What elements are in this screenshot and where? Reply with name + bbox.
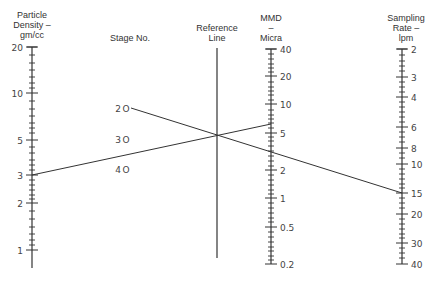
axis-mmd: 4020105210.50.2	[265, 45, 294, 270]
axis-title-line: lpm	[381, 33, 431, 43]
axis-title-line: –	[246, 23, 296, 33]
axis-title-line: Density –	[2, 20, 62, 30]
axis-sampling_rate: 234681015203040	[396, 45, 423, 270]
tick-label: 2	[411, 45, 417, 55]
tick-label: 4	[411, 93, 417, 103]
axis-title-particle-density: Particle Density – gm/cc	[2, 10, 62, 40]
tick-label: 10	[12, 89, 24, 99]
axis-title-line: Reference	[186, 23, 248, 33]
axis-title-line: Line	[186, 33, 248, 43]
tick-label: 2	[280, 166, 286, 176]
tick-label: 20	[280, 72, 292, 82]
tick-label: 2	[17, 199, 23, 209]
tick-label: 15	[411, 189, 422, 199]
tick-label: 20	[411, 210, 423, 220]
tick-label: 1	[280, 194, 286, 204]
tick-label: 1	[17, 246, 23, 256]
axis-title-sampling-rate: Sampling Rate – lpm	[381, 13, 431, 43]
tick-label: 6	[411, 123, 417, 133]
axis-title-stage-no: Stage No.	[100, 33, 160, 43]
axis-title-line: Micra	[246, 33, 296, 43]
axis-title-line: Rate –	[381, 23, 431, 33]
tick-label: 0.5	[280, 223, 294, 233]
stage-points-layer: 2O3O4O	[115, 104, 131, 175]
axis-title-mmd: MMD – Micra	[246, 13, 296, 43]
axes-layer: 201053214020105210.50.2234681015203040	[12, 43, 423, 270]
example-line	[32, 124, 271, 175]
tick-label: 40	[411, 260, 423, 270]
tick-label: 5	[17, 136, 23, 146]
axis-title-reference-line: Reference Line	[186, 23, 248, 43]
tick-label: 8	[411, 144, 417, 154]
tick-label: 3	[411, 73, 417, 83]
tick-label: 5	[280, 129, 286, 139]
axis-particle_density: 20105321	[12, 43, 38, 269]
tick-label: 3	[17, 171, 23, 181]
stage-point-label: 4O	[115, 165, 131, 175]
axis-title-line: Stage No.	[100, 33, 160, 43]
tick-label: 10	[280, 100, 292, 110]
example-line	[131, 108, 402, 193]
axis-title-line: MMD	[246, 13, 296, 23]
tick-label: 0.2	[280, 260, 294, 270]
tick-label: 20	[12, 43, 24, 53]
tick-label: 10	[411, 160, 423, 170]
tick-label: 30	[411, 239, 423, 249]
stage-point-label: 3O	[115, 135, 131, 145]
tick-label: 40	[280, 45, 292, 55]
axis-title-line: Particle	[2, 10, 62, 20]
axis-title-line: Sampling	[381, 13, 431, 23]
stage-point-label: 2O	[115, 104, 131, 114]
axis-title-line: gm/cc	[2, 30, 62, 40]
